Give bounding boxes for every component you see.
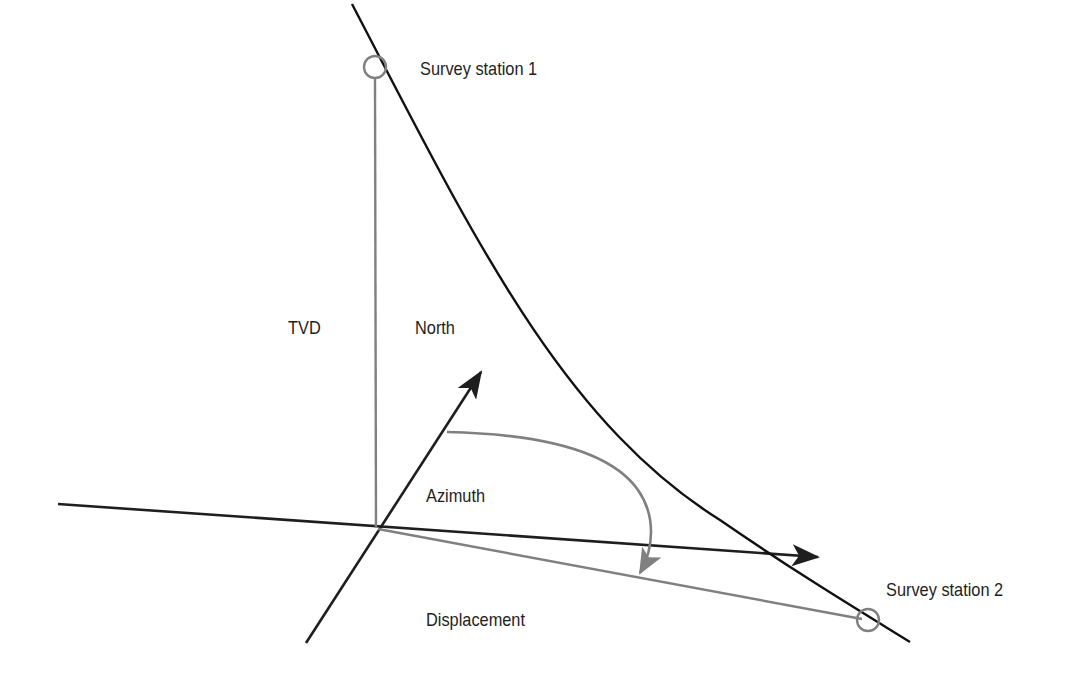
north-label: North (415, 318, 455, 337)
survey-station-2-label: Survey station 2 (886, 580, 1003, 599)
well-survey-diagram (0, 0, 1079, 680)
azimuth-label: Azimuth (426, 486, 485, 505)
survey-station-1-label: Survey station 1 (420, 59, 537, 78)
tvd-label: TVD (288, 318, 321, 337)
displacement-label: Displacement (426, 610, 525, 629)
tvd-line (375, 78, 376, 528)
east-axis-line (58, 504, 818, 557)
survey-station-1-marker (364, 56, 386, 78)
north-axis-line (306, 372, 481, 643)
